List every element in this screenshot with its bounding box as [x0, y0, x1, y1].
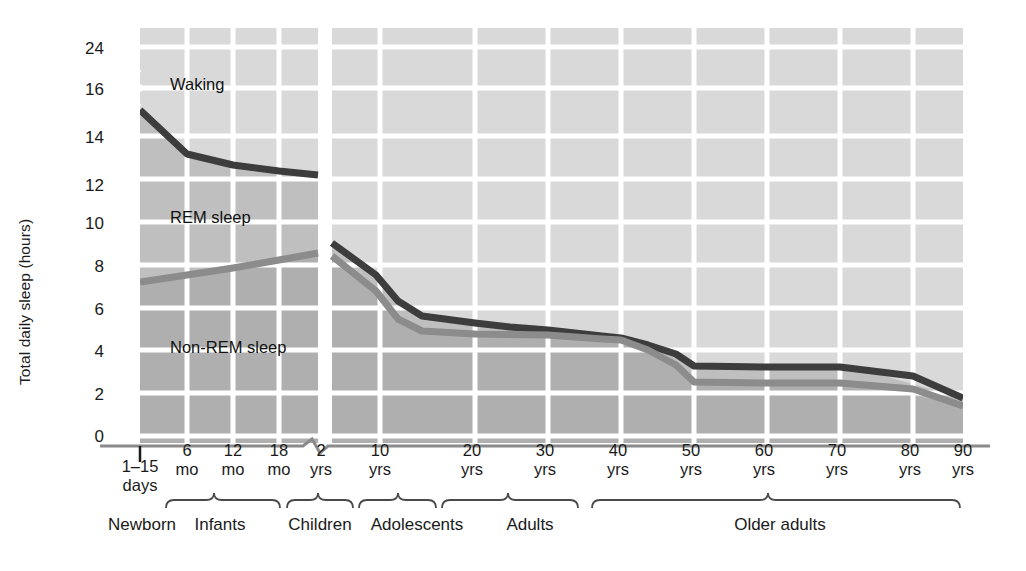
age-group-adults: Adults	[450, 515, 610, 535]
sleep-chart-figure: Total daily sleep (hours) 24 16 14 12 10…	[0, 0, 1026, 571]
x-tick-60yrs-bottom: yrs	[729, 460, 799, 479]
x-tick-90yrs-top: 90	[928, 441, 998, 460]
x-tick-30yrs-top: 30	[510, 441, 580, 460]
x-tick-20yrs-top: 20	[437, 441, 507, 460]
x-tick-60yrs: 60 yrs	[729, 441, 799, 479]
x-axis-ticks: 1–15 days 6 mo 12 mo 18 mo 2 yrs 10 yrs …	[0, 443, 1026, 503]
x-tick-10yrs-bottom: yrs	[345, 460, 415, 479]
x-tick-70yrs-bottom: yrs	[802, 460, 872, 479]
x-tick-30yrs: 30 yrs	[510, 441, 580, 479]
x-tick-20yrs-bottom: yrs	[437, 460, 507, 479]
x-tick-50yrs: 50 yrs	[656, 441, 726, 479]
y-axis-break-zigzag	[131, 70, 142, 106]
x-tick-50yrs-top: 50	[656, 441, 726, 460]
x-tick-30yrs-bottom: yrs	[510, 460, 580, 479]
x-tick-60yrs-top: 60	[729, 441, 799, 460]
x-tick-10yrs-top: 10	[345, 441, 415, 460]
x-tick-40yrs-top: 40	[583, 441, 653, 460]
x-tick-40yrs: 40 yrs	[583, 441, 653, 479]
age-group-older-adults: Older adults	[700, 515, 860, 535]
x-tick-90yrs-bottom: yrs	[928, 460, 998, 479]
x-tick-70yrs: 70 yrs	[802, 441, 872, 479]
x-tick-90yrs: 90 yrs	[928, 441, 998, 479]
x-tick-20yrs: 20 yrs	[437, 441, 507, 479]
x-tick-40yrs-bottom: yrs	[583, 460, 653, 479]
age-group-labels: Newborn Infants Children Adolescents Adu…	[0, 515, 1026, 560]
x-tick-10yrs: 10 yrs	[345, 441, 415, 479]
x-tick-50yrs-bottom: yrs	[656, 460, 726, 479]
x-tick-70yrs-top: 70	[802, 441, 872, 460]
